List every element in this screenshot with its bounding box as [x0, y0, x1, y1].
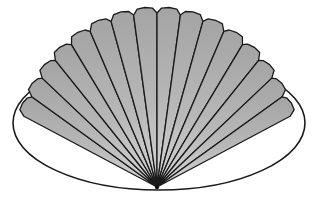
fan-illustration [0, 0, 314, 199]
fan-panels [20, 8, 294, 190]
fan-pivot [155, 185, 159, 189]
fan-svg [0, 0, 314, 199]
